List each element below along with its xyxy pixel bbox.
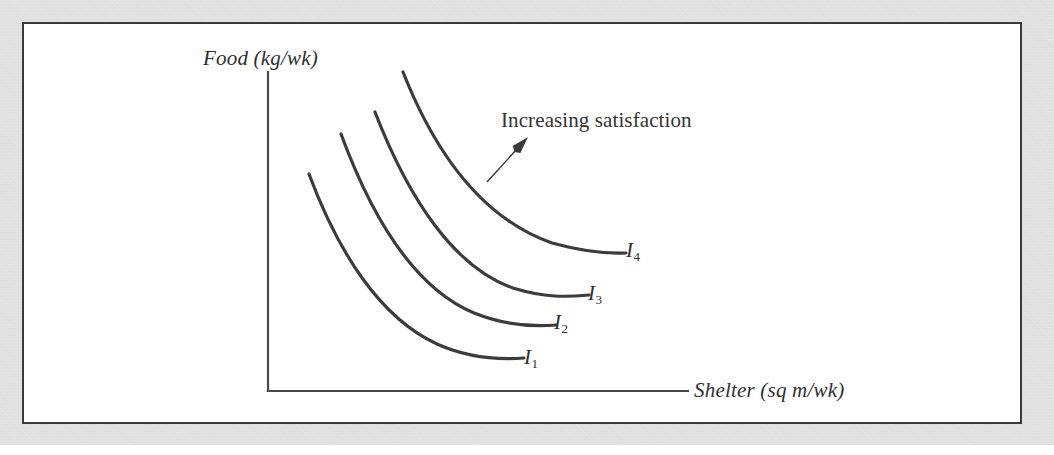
- y-axis-label: Food (kg/wk): [203, 46, 318, 71]
- curve-label-i4-subscript: 4: [634, 249, 641, 264]
- curve-label-i1: I1: [524, 345, 538, 370]
- curve-label-i1-letter: I: [524, 345, 531, 369]
- increasing-satisfaction-label: Increasing satisfaction: [501, 108, 692, 133]
- curve-label-i3-letter: I: [588, 281, 595, 305]
- curve-label-i3: I3: [588, 281, 602, 306]
- x-axis-label: Shelter (sq m/wk): [694, 378, 844, 403]
- figure-root: Food (kg/wk) Shelter (sq m/wk) I1 I2 I3 …: [0, 0, 1054, 455]
- curve-label-i4: I4: [626, 238, 640, 263]
- curve-label-i2-letter: I: [554, 310, 561, 334]
- curve-label-i2-subscript: 2: [562, 321, 569, 336]
- curve-label-i2: I2: [554, 310, 568, 335]
- curve-label-i3-subscript: 3: [596, 292, 603, 307]
- curve-label-i4-letter: I: [626, 238, 633, 262]
- curve-label-i1-subscript: 1: [532, 356, 539, 371]
- figure-panel: [22, 22, 1022, 424]
